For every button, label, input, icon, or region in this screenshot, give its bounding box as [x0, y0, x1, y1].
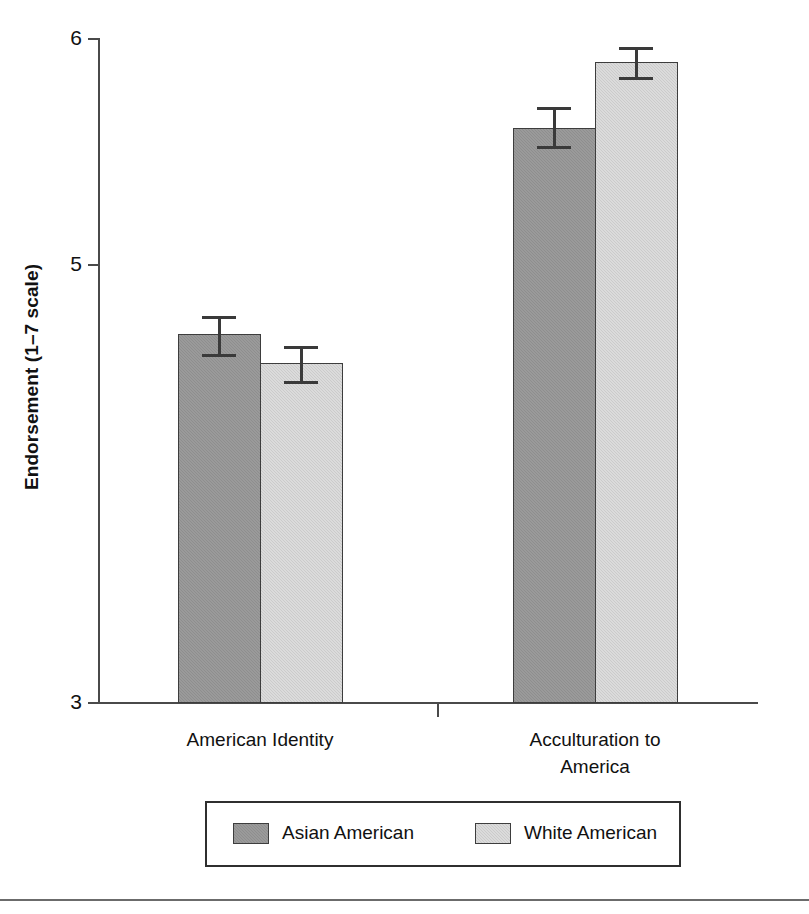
legend-swatch-asian-american-icon — [233, 823, 269, 844]
errorbar-cap-top-white-american-identity — [284, 346, 318, 349]
errorbar-stem-asian-american-acculturation — [553, 107, 556, 149]
errorbar-cap-bottom-white-american-acculturation — [619, 77, 653, 80]
errorbar-cap-bottom-asian-american-acculturation — [537, 146, 571, 149]
x-axis-label-acculturation-line1: Acculturation to — [495, 726, 695, 753]
errorbar-cap-top-asian-american-identity — [202, 316, 236, 319]
legend-entry-white-american[interactable]: White American — [475, 822, 657, 844]
y-tick-mark-6 — [88, 38, 99, 40]
errorbar-cap-top-asian-american-acculturation — [537, 107, 571, 110]
bar-asian-american-identity[interactable] — [178, 334, 261, 703]
x-axis-label-acculturation: Acculturation to America — [495, 726, 695, 780]
y-axis-title: Endorsement (1–7 scale) — [21, 187, 43, 567]
errorbar-stem-white-american-acculturation — [635, 47, 638, 80]
y-tick-label-3: 3 — [36, 690, 82, 714]
x-axis-label-american-identity-line1: American Identity — [160, 726, 360, 753]
legend: Asian American White American — [205, 801, 681, 867]
bar-chart-figure: Endorsement (1–7 scale) 6 5 3 American I… — [0, 0, 809, 914]
x-axis-label-acculturation-line2: America — [495, 753, 695, 780]
y-tick-label-6: 6 — [36, 26, 82, 50]
legend-label-asian-american: Asian American — [282, 822, 414, 844]
legend-label-white-american: White American — [524, 822, 657, 844]
y-axis-line — [98, 38, 100, 704]
legend-entry-asian-american[interactable]: Asian American — [233, 822, 414, 844]
bar-white-american-identity[interactable] — [260, 363, 343, 703]
errorbar-cap-top-white-american-acculturation — [619, 47, 653, 50]
errorbar-stem-asian-american-identity — [218, 316, 221, 357]
x-axis-label-american-identity: American Identity — [160, 726, 360, 753]
errorbar-cap-bottom-asian-american-identity — [202, 354, 236, 357]
x-axis-category-separator-tick — [437, 704, 439, 717]
y-tick-label-5: 5 — [36, 252, 82, 276]
bar-white-american-acculturation[interactable] — [595, 62, 678, 703]
legend-swatch-white-american-icon — [475, 823, 511, 844]
page-bottom-rule — [0, 899, 809, 901]
y-tick-mark-3 — [88, 702, 99, 704]
y-tick-mark-5 — [88, 264, 99, 266]
bar-asian-american-acculturation[interactable] — [513, 128, 596, 703]
errorbar-cap-bottom-white-american-identity — [284, 381, 318, 384]
errorbar-stem-white-american-identity — [300, 346, 303, 384]
